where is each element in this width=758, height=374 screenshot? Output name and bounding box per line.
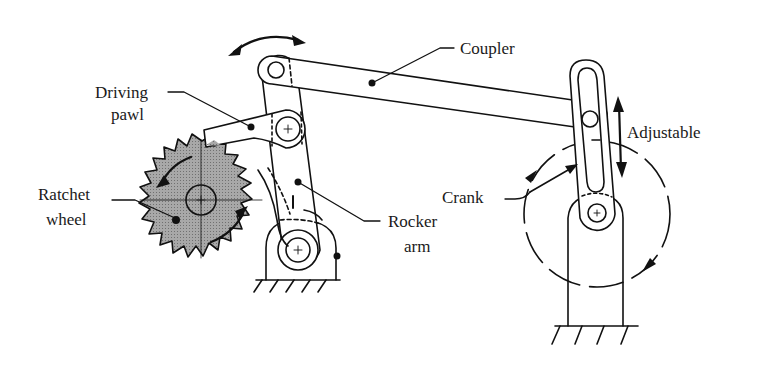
label-driving-pawl-line1: Driving bbox=[95, 83, 148, 102]
label-crank: Crank bbox=[442, 188, 484, 207]
ratchet-wheel bbox=[139, 134, 262, 258]
label-coupler: Coupler bbox=[460, 39, 515, 58]
coupler bbox=[258, 56, 607, 130]
ratchet-linkage-diagram: Coupler Driving pawl Ratchet wheel Rocke… bbox=[0, 0, 758, 374]
label-adjustable: Adjustable bbox=[627, 123, 701, 142]
diagram-canvas: Coupler Driving pawl Ratchet wheel Rocke… bbox=[0, 0, 758, 374]
label-rocker-arm-line1: Rocker bbox=[388, 212, 437, 231]
label-driving-pawl-line2: pawl bbox=[111, 105, 144, 124]
label-ratchet-wheel-line1: Ratchet bbox=[38, 185, 90, 204]
driving-pawl bbox=[204, 110, 305, 148]
label-rocker-arm-line2: arm bbox=[404, 237, 430, 256]
label-ratchet-wheel-line2: wheel bbox=[46, 210, 87, 229]
